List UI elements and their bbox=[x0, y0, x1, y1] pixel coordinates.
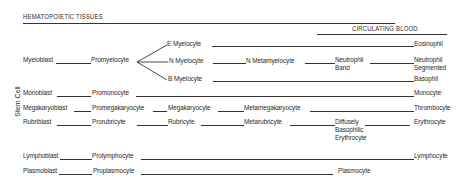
prorubricyte: Prorubricyte bbox=[92, 118, 126, 125]
megakaryocyte: Megakaryocyte bbox=[168, 104, 210, 111]
myelocyte-branch-lines bbox=[0, 0, 460, 189]
connector bbox=[57, 96, 91, 97]
prolymphocyte: Prolymphocyte bbox=[92, 152, 133, 159]
connector bbox=[213, 63, 246, 64]
neutrophil-segmented-line1: Neutrophil bbox=[414, 56, 442, 63]
diffusely-basophilic-line1: Diffusely bbox=[335, 118, 359, 125]
neutrophil-band-line1: Neutrophil bbox=[335, 56, 363, 63]
rubricyte: Rubricyte bbox=[168, 118, 194, 125]
connector bbox=[213, 81, 414, 82]
connector bbox=[141, 159, 414, 160]
connector bbox=[74, 111, 91, 112]
diffusely-basophilic-line2: Basophilic bbox=[335, 126, 363, 133]
connector bbox=[305, 63, 335, 64]
eosinophil: Eosinophil bbox=[414, 40, 443, 47]
monoblast: Monoblast bbox=[23, 89, 52, 96]
connector bbox=[59, 174, 92, 175]
lymphocyte: Lymphocyte bbox=[414, 152, 448, 159]
promyelocyte: Promyelocyte bbox=[91, 56, 129, 63]
connector bbox=[60, 159, 92, 160]
plasmocyte: Plasmocyte bbox=[338, 167, 370, 174]
plasmoblast: Plasmoblast bbox=[23, 167, 57, 174]
lymphoblast: Lymphoblast bbox=[23, 152, 58, 159]
connector bbox=[370, 63, 414, 64]
myeloblast: Myeloblast bbox=[23, 56, 53, 63]
n-metamyelocyte: N Metamyelocyte bbox=[246, 57, 294, 64]
connector bbox=[136, 96, 414, 97]
connector bbox=[56, 63, 91, 64]
erythrocyte: Erythrocyte bbox=[414, 118, 446, 125]
connector bbox=[365, 125, 410, 126]
metamegakaryocyte: Metamegakaryocyte bbox=[244, 104, 300, 111]
megakaryoblast: Megakaryoblast bbox=[23, 104, 67, 111]
connector bbox=[137, 125, 168, 126]
connector bbox=[290, 125, 335, 126]
connector bbox=[201, 125, 244, 126]
neutrophil-segmented-line2: Segmented bbox=[414, 64, 446, 71]
diffusely-basophilic-line3: Erythrocyte bbox=[335, 134, 367, 141]
b-myelocyte: B Myelocyte bbox=[168, 75, 202, 82]
connector bbox=[153, 111, 167, 112]
connector bbox=[218, 111, 244, 112]
basophil: Basophil bbox=[414, 75, 438, 82]
connector bbox=[141, 174, 333, 175]
connector bbox=[212, 46, 414, 47]
e-myelocyte: E Myelocyte bbox=[167, 40, 201, 47]
promegakaryocyte: Promegakaryocyte bbox=[92, 104, 144, 111]
monocyte: Monocyte bbox=[414, 89, 441, 96]
connector bbox=[57, 125, 91, 126]
thrombocyte: Thrombocyte bbox=[414, 104, 451, 111]
promonocyte: Promonocyte bbox=[92, 89, 129, 96]
metarubricyte: Metarubricyte bbox=[244, 118, 282, 125]
neutrophil-band-line2: Band bbox=[335, 64, 350, 71]
connector bbox=[310, 111, 414, 112]
proplasmocyte: Proplasmocyte bbox=[93, 167, 134, 174]
rubriblast: Rubriblast bbox=[23, 118, 51, 125]
n-myelocyte: N Myelocyte bbox=[169, 57, 203, 64]
